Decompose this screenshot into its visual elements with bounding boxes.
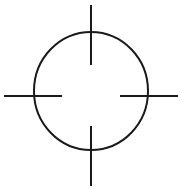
crosshair-icon xyxy=(0,0,181,190)
